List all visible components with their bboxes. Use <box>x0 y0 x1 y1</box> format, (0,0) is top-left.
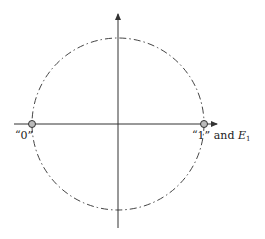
diagram-canvas <box>0 0 265 239</box>
point-zero <box>29 121 36 128</box>
energy-symbol: E <box>238 129 246 142</box>
point-one <box>201 121 208 128</box>
label-one: “1” and <box>192 129 238 142</box>
label-one-and-energy: “1” and E1 <box>192 129 250 143</box>
label-zero: “0” <box>15 129 33 142</box>
energy-subscript: 1 <box>246 135 250 143</box>
